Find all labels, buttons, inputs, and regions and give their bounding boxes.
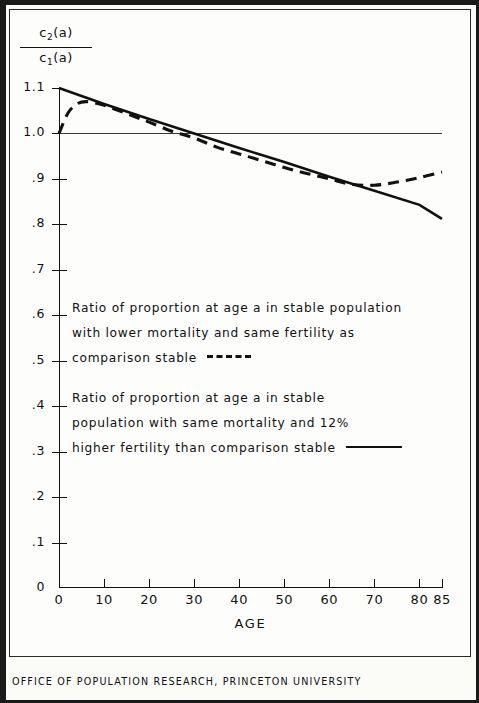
y-tick-label-1.1: 1.1 xyxy=(11,79,45,94)
x-tick-85 xyxy=(442,579,443,588)
fraction-bar xyxy=(20,47,92,48)
x-axis-title: AGE xyxy=(59,616,442,631)
x-tick-label-40: 40 xyxy=(219,592,259,607)
y-axis-title-numerator: c2(a) xyxy=(20,24,92,46)
figure-page: c2(a) c1(a) 0.1.2.3.4.5.6.7.8.91.01.1 01… xyxy=(0,0,479,703)
legend-dashed-line3: comparison stable xyxy=(72,351,197,365)
legend-solid-line1: Ratio of proportion at age a in stable xyxy=(72,386,402,411)
y-tick-label-.8: .8 xyxy=(11,215,45,230)
series-line-solid xyxy=(59,88,442,219)
y-tick-label-.4: .4 xyxy=(11,397,45,412)
figure-footer: OFFICE OF POPULATION RESEARCH, PRINCETON… xyxy=(12,676,361,687)
legend-solid-line2: population with same mortality and 12% xyxy=(72,411,402,436)
series-line-dashed xyxy=(59,102,442,186)
x-tick-label-10: 10 xyxy=(84,592,124,607)
y-tick-label-.2: .2 xyxy=(11,488,45,503)
y-tick-label-1.0: 1.0 xyxy=(11,124,45,139)
legend-dashed-line2: with lower mortality and same fertility … xyxy=(72,321,402,346)
y-tick-label-.9: .9 xyxy=(11,170,45,185)
legend-solid-line3-wrap: higher fertility than comparison stable xyxy=(72,436,402,461)
legend-dashed-line1: Ratio of proportion at age a in stable p… xyxy=(72,296,402,321)
x-tick-label-0: 0 xyxy=(39,592,79,607)
y-tick-label-.7: .7 xyxy=(11,261,45,276)
y-axis-title-denominator: c1(a) xyxy=(20,49,92,71)
x-tick-label-30: 30 xyxy=(174,592,214,607)
x-tick-label-50: 50 xyxy=(264,592,304,607)
x-tick-label-70: 70 xyxy=(354,592,394,607)
y-tick-label-.3: .3 xyxy=(11,443,45,458)
y-axis-title: c2(a) c1(a) xyxy=(20,24,92,71)
legend-solid-line-sample xyxy=(346,446,402,448)
legend-dashed-line-sample xyxy=(207,355,251,358)
legend-dashed-line3-wrap: comparison stable xyxy=(72,346,402,371)
x-tick-label-85: 85 xyxy=(422,592,462,607)
legend-solid-line3: higher fertility than comparison stable xyxy=(72,441,336,455)
legend-entry-dashed: Ratio of proportion at age a in stable p… xyxy=(72,296,402,371)
legend-entry-solid: Ratio of proportion at age a in stable p… xyxy=(72,386,402,461)
x-tick-label-60: 60 xyxy=(309,592,349,607)
y-tick-label-.5: .5 xyxy=(11,352,45,367)
y-tick-label-.1: .1 xyxy=(11,534,45,549)
x-tick-label-20: 20 xyxy=(129,592,169,607)
y-tick-label-.6: .6 xyxy=(11,306,45,321)
